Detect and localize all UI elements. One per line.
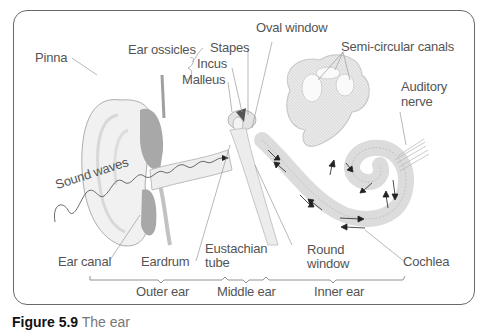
label-round-window-1: Round [307,243,344,257]
label-pinna: Pinna [35,51,67,65]
label-oval-window: Oval window [256,21,328,35]
label-semicircular-canals: Semi-circular canals [341,40,454,54]
label-ear-canal: Ear canal [58,255,111,269]
label-auditory-nerve-2: nerve [401,95,433,109]
label-malleus: Malleus [182,73,225,87]
figure-title: The ear [82,314,130,330]
region-outer-ear: Outer ear [136,285,189,299]
cochlea-duct [262,140,406,219]
label-ear-ossicles: Ear ossicles [128,43,196,57]
cartilage-lower [141,189,156,235]
label-eustachian-2: tube [205,256,230,270]
region-inner-ear: Inner ear [314,285,364,299]
region-braces [90,276,405,283]
label-eardrum: Eardrum [141,255,189,269]
region-middle-ear: Middle ear [217,285,276,299]
label-round-window-2: window [307,257,349,271]
label-eustachian-1: Eustachian [205,242,267,256]
figure-number: Figure 5.9 [12,314,78,330]
ear-canal-shape [150,150,232,190]
figure-caption: Figure 5.9 The ear [12,314,130,330]
label-auditory-nerve-1: Auditory [401,80,447,94]
label-stapes: Stapes [210,41,249,55]
label-cochlea: Cochlea [403,255,449,269]
skull-bone-line [162,75,164,118]
label-incus: Incus [197,57,227,71]
